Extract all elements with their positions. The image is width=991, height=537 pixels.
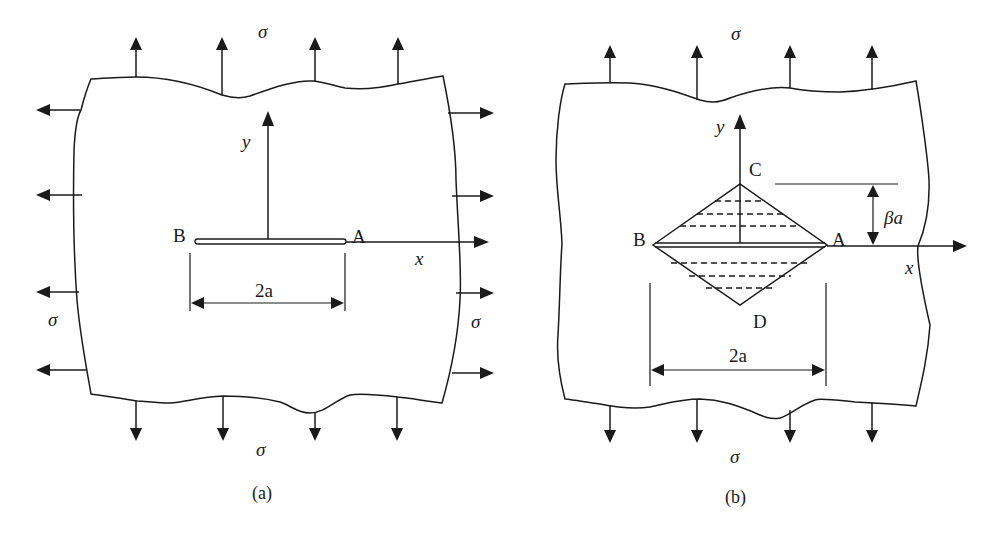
- caption-a: (a): [252, 483, 272, 504]
- vertex-b-label: B: [633, 229, 646, 250]
- crack-length-text-b: 2a: [729, 345, 748, 366]
- crack-a: [195, 239, 346, 244]
- stress-arrows-bottom-b: [604, 399, 878, 443]
- x-axis-arrowhead-b: [953, 240, 967, 252]
- crack-length-text-a: 2a: [255, 280, 274, 301]
- vertex-c-label: C: [749, 159, 762, 180]
- y-axis-label-b: y: [714, 116, 725, 137]
- y-axis-arrowhead-a: [262, 111, 274, 126]
- panel-b: σ σ y x B A C D βa 2a (b): [556, 23, 967, 508]
- stress-label-bottom-b: σ: [730, 446, 740, 467]
- stress-label-right-a: σ: [471, 311, 481, 332]
- x-axis-arrowhead-a: [474, 236, 489, 248]
- stress-label-left-a: σ: [48, 309, 58, 330]
- stress-arrows-left-a: [36, 104, 87, 376]
- plate-outline-b: [556, 81, 930, 419]
- stress-label-top-b: σ: [731, 23, 741, 44]
- vertex-a-label: A: [832, 229, 846, 250]
- dimension-2a-b: [650, 283, 826, 386]
- y-axis-arrowhead-b: [734, 114, 746, 129]
- crack-tip-a-label-a: A: [352, 226, 366, 247]
- crack-tip-b-label-a: B: [173, 225, 186, 246]
- height-label-beta-a: βa: [883, 207, 903, 228]
- x-axis-label-a: x: [414, 248, 424, 269]
- caption-b: (b): [725, 487, 746, 508]
- figure-canvas: σ σ σ σ y x B A 2a (a): [0, 0, 991, 537]
- vertex-d-label: D: [753, 311, 767, 332]
- panel-a: σ σ σ σ y x B A 2a (a): [36, 21, 494, 504]
- y-axis-label-a: y: [240, 131, 251, 152]
- stress-arrows-top-a: [130, 37, 404, 95]
- stress-label-bottom-a: σ: [256, 439, 266, 460]
- crack-length-label-a: 2a: [255, 280, 274, 301]
- stress-label-top-a: σ: [258, 21, 268, 42]
- x-axis-label-b: x: [904, 257, 914, 278]
- crack-length-label-b: 2a: [729, 345, 748, 366]
